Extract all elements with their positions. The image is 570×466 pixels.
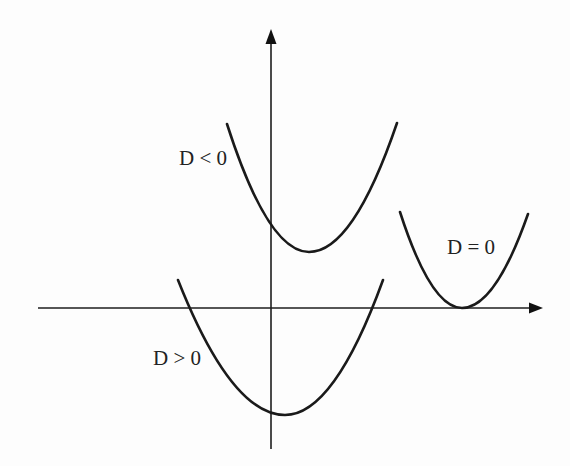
label-d-negative: D < 0 bbox=[179, 146, 227, 170]
y-axis-arrow-icon bbox=[266, 29, 277, 44]
parabola-d-negative bbox=[227, 123, 397, 252]
x-axis-arrow-icon bbox=[529, 303, 543, 314]
parabola-d-zero bbox=[400, 212, 528, 308]
discriminant-diagram: D < 0 D = 0 D > 0 bbox=[0, 0, 570, 466]
parabola-d-positive bbox=[178, 280, 383, 415]
diagram-svg: D < 0 D = 0 D > 0 bbox=[0, 0, 570, 466]
label-d-positive: D > 0 bbox=[153, 346, 201, 370]
label-d-zero: D = 0 bbox=[447, 235, 495, 259]
